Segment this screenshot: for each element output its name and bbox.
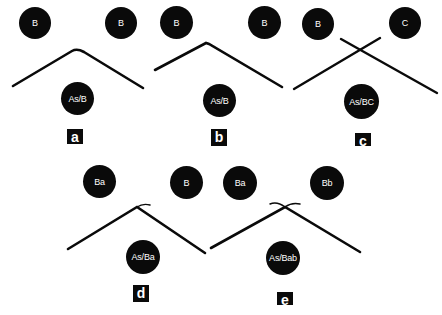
node-a-bottom: As/B: [61, 82, 94, 115]
panel-label-a: a: [67, 129, 83, 144]
line-d-hook: [137, 204, 150, 207]
node-d-top-left: Ba: [83, 165, 116, 198]
node-a-top-left: B: [19, 7, 51, 39]
node-c-top-right: C: [389, 7, 421, 39]
node-e-top-left: Ba: [223, 166, 257, 200]
node-a-top-right: B: [105, 7, 137, 39]
node-e-top-right: Bb: [310, 166, 344, 200]
node-b-top-right: B: [248, 6, 281, 39]
panel-label-d: d: [133, 285, 149, 302]
panel-label-b: b: [211, 129, 227, 146]
node-b-bottom: As/B: [203, 84, 236, 117]
node-c-bottom: As/BC: [344, 84, 379, 119]
node-d-bottom: As/Ba: [126, 240, 160, 274]
line-e-hook-left: [270, 203, 285, 207]
node-b-top-left: B: [160, 6, 193, 39]
diagram: B B As/B a B B As/B b B C As/BC c Ba B A…: [0, 0, 442, 315]
node-d-top-right: B: [170, 166, 203, 199]
line-e-hook-right: [285, 203, 300, 207]
node-c-top-left: B: [302, 8, 334, 40]
node-e-bottom: As/Bab: [266, 241, 300, 275]
line-c1: [294, 38, 380, 89]
panel-label-e: e: [277, 292, 293, 305]
line-b: [155, 43, 282, 87]
connection-lines: [0, 0, 442, 315]
panel-label-c: c: [355, 133, 371, 146]
